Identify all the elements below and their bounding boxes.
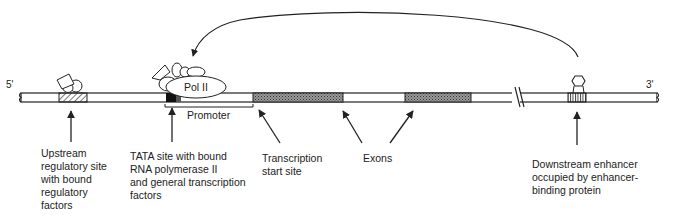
promoter-bracket [165,104,253,107]
enhancer-loop-arrow [193,12,578,57]
label-transcription-start-site: Transcription start site [262,152,322,178]
upstream-regulatory-site [59,93,87,102]
label-downstream-enhancer: Downstream enhancer occupied by enhancer… [532,158,638,197]
pol-ii-label: Pol II [184,81,208,93]
three-prime-label: 3' [646,79,653,90]
label-tata-site: TATA site with bound RNA polymerase II a… [130,150,246,202]
enhancer-binding-protein-icon [572,76,585,86]
five-prime-label: 5' [6,79,13,90]
exon-2 [405,93,471,102]
upstream-regulatory-factors-icon [57,74,82,93]
pointer-arrows [71,108,577,145]
downstream-enhancer [568,93,586,102]
label-exons: Exons [363,152,392,165]
label-upstream-regulatory-site: Upstream regulatory site with bound regu… [41,147,107,212]
exon-1 [253,93,343,102]
promoter-label: Promoter [187,109,230,122]
